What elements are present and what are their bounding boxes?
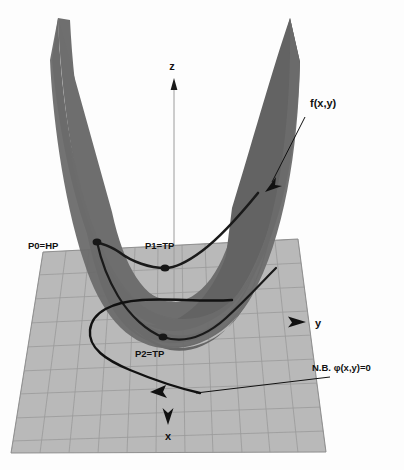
figure-root: z y x P0=HP P1=TP P2=T [0, 0, 404, 470]
constraint-label: N.B. φ(x,y)=0 [312, 362, 371, 373]
point-marker-p0[interactable] [93, 238, 102, 245]
point-marker-p1[interactable] [161, 264, 170, 271]
x-axis-label: x [165, 430, 172, 442]
surface-diagram: z y x P0=HP P1=TP P2=T [0, 0, 404, 470]
y-axis-label: y [315, 317, 322, 329]
z-axis-arrowhead [171, 78, 178, 90]
point-label-p1: P1=TP [145, 240, 175, 251]
point-label-p0: P0=HP [28, 240, 59, 251]
point-marker-p2[interactable] [159, 333, 168, 340]
point-label-p2: P2=TP [135, 348, 165, 359]
z-axis-label: z [169, 60, 175, 72]
surface-label: f(x,y) [310, 97, 337, 109]
